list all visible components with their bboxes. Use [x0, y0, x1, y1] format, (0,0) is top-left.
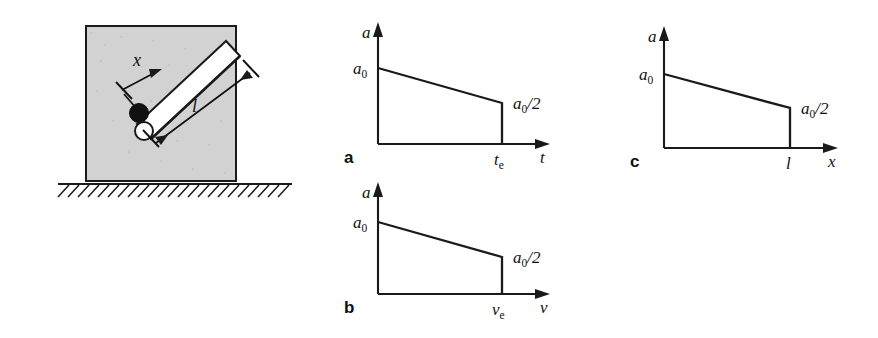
panel-a-x-axis-label: t	[540, 148, 546, 167]
chart-panel-a	[373, 22, 550, 149]
panel-a-y-end-label: a0/2	[513, 94, 541, 115]
label-l: l	[192, 96, 197, 116]
chart-panel-b	[373, 182, 550, 299]
panel-b-curve	[378, 222, 502, 294]
panel-c-curve	[664, 74, 790, 148]
panel-b-x-axis-label: v	[540, 298, 548, 317]
schematic-block-and-rod: x l	[58, 26, 292, 197]
panel-a-y-start-label: a0	[353, 59, 368, 80]
panel-b-y-axis-label: a	[362, 183, 371, 202]
panel-b-y-end-label: a0/2	[513, 248, 541, 269]
panel-c-y-axis-label: a	[648, 27, 657, 46]
panel-c-y-end-label: a0/2	[801, 99, 829, 120]
ground-hatching	[58, 185, 289, 197]
panel-c-y-start-label: a0	[639, 65, 654, 86]
chart-panel-c	[659, 26, 838, 153]
panel-b-y-axis-arrow	[373, 182, 383, 197]
panel-a-curve	[378, 68, 502, 144]
panel-c-y-axis-arrow	[659, 26, 669, 41]
panel-a-x-end-label: te	[494, 150, 504, 171]
panel-b-letter: b	[344, 298, 354, 317]
panel-a-letter: a	[344, 148, 354, 167]
panel-a-y-axis-arrow	[373, 22, 383, 37]
panel-b-y-start-label: a0	[353, 213, 368, 234]
panel-a-y-axis-label: a	[362, 23, 371, 42]
panel-c-x-end-label: l	[786, 154, 791, 173]
panel-c-letter: c	[630, 152, 639, 171]
panel-b-x-end-label: ve	[492, 300, 505, 321]
label-x: x	[132, 50, 141, 70]
figure-canvas: x l	[0, 0, 878, 338]
panel-c-x-axis-label: x	[827, 152, 836, 171]
pivot-point	[130, 104, 149, 123]
